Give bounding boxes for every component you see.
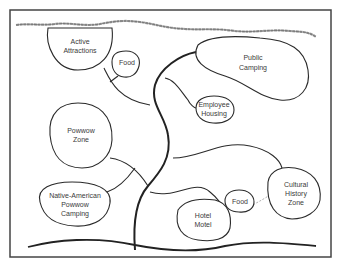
label-active: Active — [70, 38, 89, 45]
label-employee: Employee — [198, 101, 229, 109]
label-attractions: Attractions — [63, 47, 97, 54]
zone-food-south: Food — [225, 190, 254, 212]
label-powwow-2: Powwow — [61, 201, 90, 208]
label-food-north: Food — [119, 59, 135, 66]
label-zone-2: Zone — [288, 199, 304, 206]
site-diagram: Active Attractions Food Public Camping E… — [0, 0, 341, 264]
label-native-american: Native-American — [49, 192, 101, 199]
zone-hotel-motel: Hotel Motel — [177, 199, 230, 240]
label-cultural: Cultural — [284, 181, 309, 188]
ground-line — [28, 240, 316, 251]
label-motel: Motel — [194, 221, 212, 228]
label-food-south: Food — [232, 198, 248, 205]
label-public: Public — [243, 54, 263, 61]
label-camping: Camping — [239, 64, 267, 72]
label-history: History — [285, 190, 307, 198]
zone-food-north: Food — [112, 51, 139, 77]
label-powwow: Powwow — [67, 127, 96, 134]
zone-native-american-powwow-camping: Native-American Powwow Camping — [39, 182, 110, 226]
label-zone: Zone — [73, 136, 89, 143]
label-housing: Housing — [201, 110, 227, 118]
zone-active-attractions: Active Attractions — [47, 28, 112, 70]
zone-cultural-history: Cultural History Zone — [268, 168, 321, 219]
label-hotel: Hotel — [195, 212, 212, 219]
label-camping-2: Camping — [61, 210, 89, 218]
zone-powwow: Powwow Zone — [50, 103, 112, 168]
zone-employee-housing: Employee Housing — [196, 96, 234, 123]
zone-public-camping: Public Camping — [196, 37, 309, 100]
